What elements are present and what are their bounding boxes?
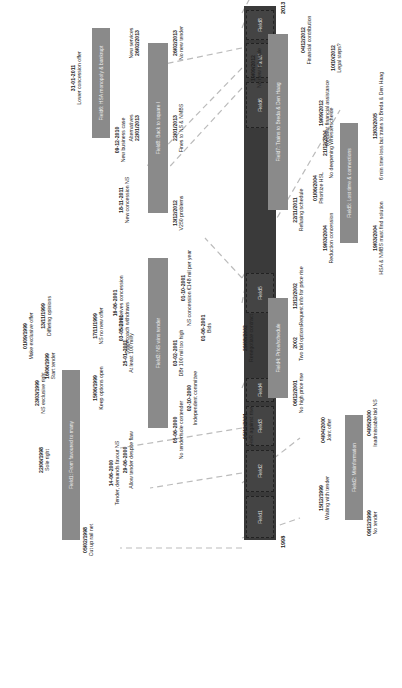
event-f7-1: 19/09/2012No new schedule: [250, 48, 262, 88]
event-f7-0: 22/11/2011Refusing schedule: [292, 189, 304, 232]
event-f1-6: 15/06/1999Keep options open: [92, 366, 104, 409]
event-f3-7: 16-06-2001NS receives concession: [112, 275, 124, 330]
event-f5-1: 19/03/2004HSA & NMBS must find solution: [372, 201, 384, 275]
event-f7-2: 19/09/2012Request financial assistance: [318, 80, 330, 146]
field6-box: Field6: HSA monopoly & bankrupt: [92, 28, 110, 138]
event-f3-5: 03-02-2001DBr 100 mil too high: [172, 330, 184, 377]
end-year-label: 2013: [280, 2, 286, 14]
event-f8-0: 13/12/2012V250 problems: [172, 196, 184, 231]
segment-field2: Field2: [246, 450, 274, 492]
event-f3-8: 01-06-2001Bids: [200, 315, 212, 342]
start-year-label: 1998: [280, 536, 286, 548]
field1-box: Field1: From favoured to many: [62, 370, 80, 540]
field8-box: Field8: Back to square I: [148, 43, 168, 213]
event-f4-1: 06/12/2001No high price rise: [292, 373, 304, 413]
event-f1-0: 05/02/1998Cut up rail net: [82, 524, 94, 556]
event-f8-4: 26/02/2013No new tender: [172, 26, 184, 60]
timeline-diagram: Field1 Field2 Field3 Field4 Field5 Field…: [0, 0, 402, 688]
event-f2-1: 15/12/1999Waiting with tender: [318, 476, 330, 520]
event-f8-1: Alternatives22/01/2013: [128, 114, 140, 141]
event-f7-3: 10/10/2012Legal steps?: [330, 43, 342, 72]
event-f6-2: 18-11-2011New concession NS: [118, 177, 130, 223]
event-f4-0: 05/12/2001HvR against rise: [242, 407, 254, 445]
event-f1-3: 16/06/1999Start tender: [44, 352, 56, 379]
event-f4-4: 12/12/2002Request info for price rise: [292, 266, 304, 325]
connector-lines: [0, 0, 402, 688]
event-f1-7: 17/11/1999NS no new offer: [92, 307, 104, 344]
event-f8-2: 22/01/2013Fines to NS & NMBS: [172, 104, 184, 152]
event-f5-4: 12/03/20056 min time loss but trains to …: [372, 72, 384, 180]
event-f3-2: 05-06-2000No tender/sole contender: [172, 401, 184, 459]
event-f1-4: 01/09/1999Make exclusive offer: [22, 312, 34, 359]
segment-field1: Field1: [246, 496, 274, 538]
event-f6-1: 31-01-2011Lower concession offer: [70, 51, 82, 104]
event-f5-0: 19/03/2004Reduction concession: [322, 213, 334, 264]
event-f2-0: 09/12/1999No tender: [366, 510, 378, 536]
event-f4-3: 2002Two bid options: [292, 325, 304, 361]
event-f6-0: 09-12-2010New business case: [114, 118, 126, 163]
event-f3-1: 29-06-2000Allow tender despite flaw: [122, 431, 134, 488]
event-f3-0: 14-06-2000Tender, demands favour NS: [108, 441, 120, 505]
event-f4-2: 29/08/2002Renegotiate contract: [242, 314, 254, 362]
event-f1-1: 22/06/1998Sole right: [38, 447, 50, 473]
event-f2-2: 04/04/2000Joint offer: [320, 417, 332, 443]
field5-box: Field5: Lost time & connections: [340, 123, 358, 243]
field3-box: Field3: NS wins tender: [148, 258, 168, 428]
field2-box: Field2: Misinformation: [345, 415, 363, 520]
event-f3-9: 01-10-2001NS concession €148 mil per yea…: [180, 250, 192, 326]
field7-box: Field7: Trains to Breda & Den Haag: [268, 34, 288, 210]
field4-box: Field4: Price/schedule: [268, 298, 288, 398]
event-f3-3: 02-10-2000Independent committee: [186, 371, 198, 425]
event-f7-4: 04/12/2012Financial contribution: [300, 15, 312, 64]
event-f8-3: New services26/02/2013: [128, 28, 140, 59]
event-f2-3: 04/05/2000Inadmissable bid NS: [366, 399, 378, 447]
event-f1-5: 13/11/1999Differing opinions: [40, 296, 52, 336]
